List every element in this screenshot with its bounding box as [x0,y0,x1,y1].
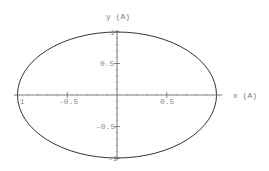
x-tick-label-neg05: -0.5 [59,97,78,106]
plot-canvas: -1 -0.5 0.5 1 0.5 -0.5 -1 y (A) x (A) [0,0,269,171]
y-tick-label-neg1: -1 [108,154,118,163]
y-tick-label-pos05: 0.5 [100,59,115,68]
y-tick-label-neg05: -0.5 [96,122,115,131]
x-axis-label: x (A) [233,91,257,100]
x-tick-label-pos05: 0.5 [160,97,175,106]
x-tick-label-neg1: -1 [15,97,25,106]
y-tick-label-pos1: 1 [110,28,115,37]
y-axis-label: y (A) [106,12,130,21]
